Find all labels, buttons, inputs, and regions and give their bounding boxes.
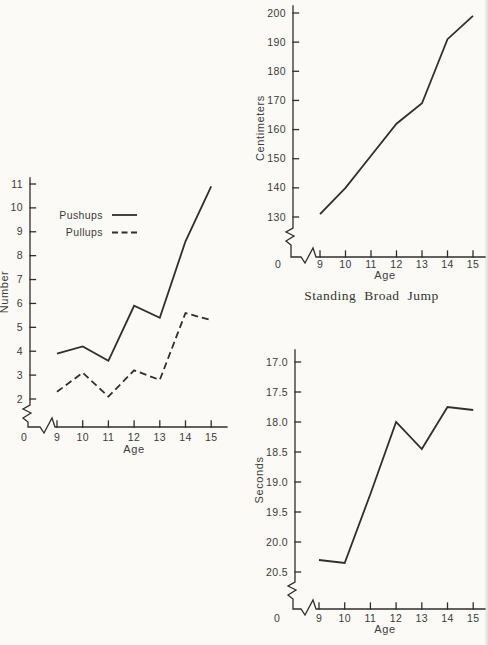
x-axis-label: Age [374, 269, 395, 281]
axis-with-breaks [286, 6, 485, 263]
y-tick-label: 140 [267, 181, 286, 193]
y-tick-label: 7 [17, 273, 23, 285]
y-tick-label: 19.0 [266, 476, 288, 488]
y-axis-label: Number [0, 271, 10, 314]
page-edge-shadow [484, 0, 488, 645]
x-tick-label: 13 [416, 258, 428, 270]
y-tick-label: 160 [267, 123, 286, 135]
x-tick-label: 9 [317, 258, 323, 270]
x-tick-label: 10 [339, 258, 351, 270]
origin-label: 0 [275, 258, 281, 270]
y-tick-label: 18.5 [266, 446, 288, 458]
y-tick-label: 8 [17, 249, 23, 261]
broad-jump-caption: Standing Broad Jump [255, 288, 488, 304]
y-tick-label: 180 [267, 65, 286, 77]
y-tick-label: 11 [11, 178, 23, 190]
x-tick-label: 14 [441, 612, 453, 624]
x-tick-label: 15 [205, 431, 217, 443]
pushups-pullups-chart: 11109876543291011121314150AgeNumberPushu… [0, 160, 248, 472]
series-line-standing-broad-jump [320, 16, 473, 214]
x-tick-label: 10 [76, 431, 88, 443]
y-tick-label: 190 [267, 36, 286, 48]
x-tick-label: 11 [103, 431, 115, 443]
x-axis-label: Age [123, 443, 144, 455]
origin-label: 0 [274, 612, 280, 624]
x-tick-label: 14 [441, 258, 453, 270]
axis-with-breaks [288, 350, 485, 615]
x-axis-label: Age [374, 623, 395, 635]
figure-page: 11109876543291011121314150AgeNumberPushu… [0, 0, 488, 645]
y-tick-label: 20.5 [266, 566, 288, 578]
x-tick-label: 9 [316, 612, 322, 624]
y-tick-label: 2 [17, 393, 23, 405]
legend-label-pullups: Pullups [66, 226, 103, 238]
x-tick-label: 12 [128, 431, 140, 443]
origin-label: 0 [21, 431, 27, 443]
y-tick-label: 150 [267, 152, 286, 164]
x-tick-label: 9 [54, 431, 60, 443]
y-tick-label: 10 [11, 201, 23, 213]
y-tick-label: 200 [267, 7, 286, 19]
series-line-pullups [57, 313, 211, 397]
x-tick-label: 13 [416, 612, 428, 624]
x-tick-label: 15 [467, 612, 479, 624]
x-tick-label: 13 [154, 431, 166, 443]
y-tick-label: 4 [17, 345, 23, 357]
y-tick-label: 5 [17, 321, 23, 333]
standing-broad-jump-chart: 20019018017016015014013091011121314150Ag… [255, 0, 488, 312]
y-tick-label: 170 [267, 94, 286, 106]
series-line-running-time [319, 407, 473, 563]
y-tick-label: 9 [17, 225, 23, 237]
y-axis-label: Centimeters [254, 95, 266, 161]
y-tick-label: 19.5 [266, 506, 288, 518]
y-axis-label: Seconds [253, 456, 265, 503]
y-tick-label: 130 [267, 211, 286, 223]
legend-label-pushups: Pushups [59, 209, 103, 221]
y-tick-label: 17.0 [266, 356, 288, 368]
x-tick-label: 10 [338, 612, 350, 624]
y-tick-label: 18.0 [266, 416, 288, 428]
running-seconds-chart: 17.017.518.018.519.019.520.020.591011121… [255, 330, 488, 645]
x-tick-label: 15 [467, 258, 479, 270]
y-tick-label: 20.0 [266, 536, 288, 548]
y-tick-label: 17.5 [266, 386, 288, 398]
y-tick-label: 3 [17, 369, 23, 381]
x-tick-label: 14 [179, 431, 191, 443]
y-tick-label: 6 [17, 297, 23, 309]
